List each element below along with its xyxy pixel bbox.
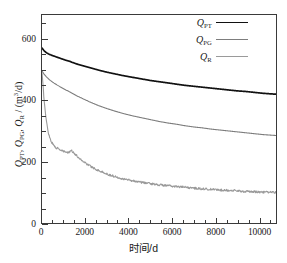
- x-tick: [139, 220, 140, 224]
- y-tick: [42, 70, 46, 71]
- x-tick: [128, 218, 129, 224]
- x-tick-label: 2000: [75, 227, 94, 237]
- y-tick: [42, 178, 46, 179]
- x-tick: [205, 220, 206, 224]
- x-tick: [74, 220, 75, 224]
- x-tick: [183, 220, 184, 224]
- x-tick: [216, 218, 217, 224]
- series-line-q-pg: [42, 71, 276, 136]
- x-tick: [270, 220, 271, 224]
- legend-swatch: [216, 22, 248, 23]
- y-title-q1-sub: PT: [18, 152, 25, 160]
- y-tick: [42, 224, 48, 225]
- y-tick: [42, 162, 48, 163]
- legend-swatch: [216, 56, 248, 57]
- x-tick-label: 6000: [163, 227, 182, 237]
- x-tick-label: 0: [39, 227, 44, 237]
- x-tick: [150, 220, 151, 224]
- legend-item-q-r[interactable]: QR: [196, 50, 248, 62]
- x-tick: [161, 220, 162, 224]
- y-tick-label: 600: [0, 34, 36, 44]
- y-title-q3-sub: R: [18, 115, 25, 119]
- legend-label: QR: [200, 51, 212, 62]
- y-tick: [42, 85, 46, 86]
- x-tick: [238, 220, 239, 224]
- y-tick: [42, 131, 46, 132]
- y-axis-title: QPT, QPG, QR / (m3/d): [13, 45, 24, 205]
- y-tick-label: 0: [0, 219, 36, 229]
- y-tick: [42, 39, 48, 40]
- legend-swatch: [216, 39, 248, 40]
- x-tick: [227, 220, 228, 224]
- x-tick-label: 10000: [248, 227, 271, 237]
- legend-label: QPG: [196, 34, 212, 45]
- x-tick: [63, 220, 64, 224]
- y-tick: [42, 116, 46, 117]
- legend: QPTQPGQR: [196, 16, 248, 62]
- y-title-q2: Q: [13, 140, 24, 147]
- y-tick: [42, 209, 46, 210]
- x-tick: [260, 218, 261, 224]
- legend-label: QPT: [197, 17, 212, 28]
- y-tick: [42, 100, 48, 101]
- y-title-unit-post: /d): [13, 82, 24, 93]
- legend-item-q-pt[interactable]: QPT: [196, 16, 248, 28]
- chart-figure: 0200040006000800010000 0200400600 时间/d Q…: [0, 0, 287, 263]
- y-title-q2-sub: PG: [18, 132, 25, 140]
- legend-item-q-pg[interactable]: QPG: [196, 33, 248, 45]
- y-tick: [42, 54, 46, 55]
- x-axis-title: 时间/d: [0, 240, 287, 255]
- y-title-q1: Q: [13, 160, 24, 167]
- x-tick-label: 4000: [119, 227, 138, 237]
- x-tick: [85, 218, 86, 224]
- y-tick: [42, 193, 46, 194]
- x-tick: [194, 220, 195, 224]
- y-title-unit-pre: / (m: [13, 96, 24, 115]
- y-tick: [42, 147, 46, 148]
- x-tick: [117, 220, 118, 224]
- y-tick: [42, 23, 46, 24]
- x-tick: [96, 220, 97, 224]
- x-tick: [52, 220, 53, 224]
- x-tick: [172, 218, 173, 224]
- y-title-q3: Q: [13, 119, 24, 126]
- x-tick-label: 8000: [207, 227, 226, 237]
- y-title-unit-exp: 3: [12, 93, 19, 96]
- x-tick: [107, 220, 108, 224]
- x-tick: [249, 220, 250, 224]
